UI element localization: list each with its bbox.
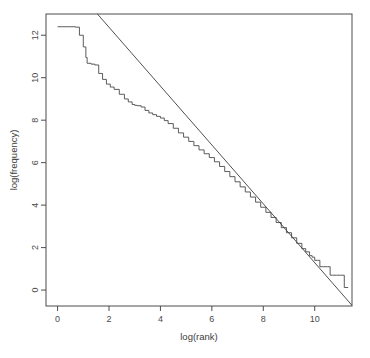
plot-canvas: 0246810 024681012 log(rank) log(frequenc… <box>0 0 370 358</box>
y-tick-label: 0 <box>30 288 40 293</box>
x-tick-label: 8 <box>261 314 266 324</box>
zipf-plot-figure: 0246810 024681012 log(rank) log(frequenc… <box>0 0 370 358</box>
y-tick-label: 4 <box>30 203 40 208</box>
x-tick-label: 10 <box>310 314 320 324</box>
x-tick-label: 0 <box>55 314 60 324</box>
figure-background <box>0 0 370 358</box>
x-tick-label: 6 <box>209 314 214 324</box>
y-tick-label: 12 <box>30 30 40 40</box>
x-axis-title: log(rank) <box>180 331 218 342</box>
x-tick-label: 4 <box>158 314 163 324</box>
y-tick-label: 8 <box>30 118 40 123</box>
x-tick-label: 2 <box>106 314 111 324</box>
y-tick-label: 10 <box>30 73 40 83</box>
y-tick-label: 2 <box>30 245 40 250</box>
y-tick-label: 6 <box>30 160 40 165</box>
y-axis-title: log(frequency) <box>8 130 19 191</box>
